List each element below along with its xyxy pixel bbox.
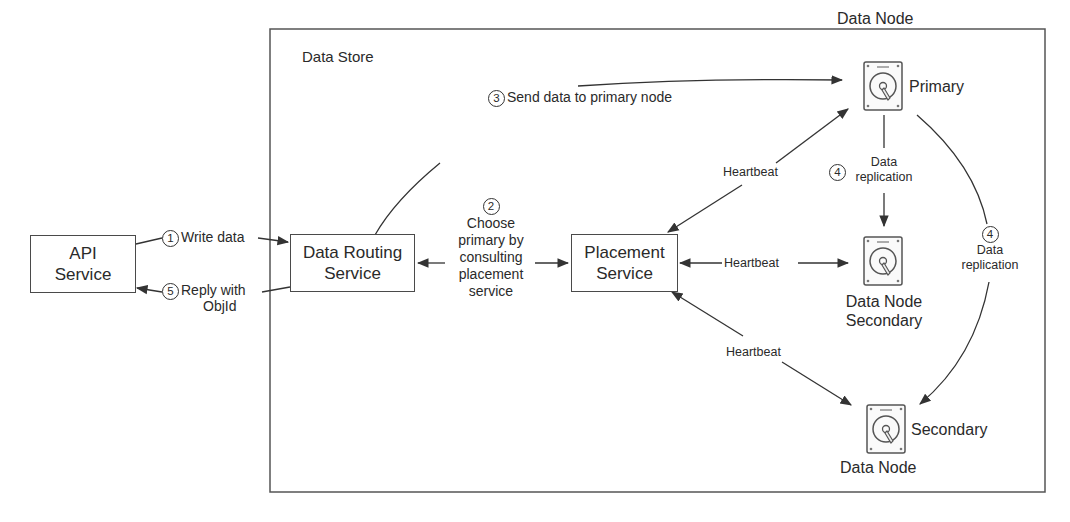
heartbeat-secondary-1-label: Heartbeat [724,256,779,271]
api-service-box[interactable]: API Service [30,235,136,293]
data-routing-label-1: Data Routing [303,242,402,263]
replication-1-line-2: replication [848,170,920,185]
placement-label-1: Placement [584,242,664,263]
reply-text-1: Reply with [181,282,246,298]
step-5-badge: 5 [162,283,179,300]
secondary-2-node-title: Data Node [840,458,917,477]
primary-node-title: Data Node [837,9,914,28]
primary-node-role: Primary [909,77,964,96]
step-4-badge-a: 4 [829,164,846,181]
reply-arrow [262,287,290,292]
choose-primary-label: 2 Choose primary by consulting placement… [446,197,536,300]
hard-disk-icon[interactable] [863,236,903,286]
hard-disk-icon[interactable] [863,61,903,111]
placement-service-box[interactable]: Placement Service [571,234,678,292]
choose-line-4: placement [446,266,536,283]
replication-2-arrow [917,115,987,224]
replication-2-label: 4 Data replication [954,226,1026,273]
hard-disk-icon[interactable] [866,404,906,454]
send-to-primary-arrow-b [578,80,842,86]
replication-2-line-1: Data [954,243,1026,258]
step-3-badge: 3 [488,90,505,107]
data-store-title: Data Store [302,48,374,65]
step-1-badge: 1 [162,230,179,247]
data-routing-label-2: Service [324,263,381,284]
api-service-label-2: Service [55,264,112,285]
secondary-1-title: Data Node [838,292,930,311]
step-2-badge: 2 [483,198,500,215]
step-4-badge-b: 4 [982,226,999,243]
replication-2-line-2: replication [954,258,1026,273]
choose-line-5: service [446,283,536,300]
write-data-text: Write data [181,229,245,245]
choose-line-2: primary by [446,232,536,249]
choose-line-3: consulting [446,249,536,266]
reply-text-2: ObjId [203,298,236,315]
send-to-primary-arrow-a [375,163,440,235]
secondary-1-node-label: Data Node Secondary [838,292,930,330]
secondary-2-node-role: Secondary [911,420,988,439]
heartbeat-primary-label: Heartbeat [723,165,778,180]
heartbeat-secondary-2-arrow [672,292,743,336]
send-to-primary-label: 3Send data to primary node [488,89,672,107]
send-to-primary-text: Send data to primary node [507,89,672,105]
replication-1-label: Data replication [848,155,920,185]
secondary-1-role: Secondary [838,311,930,330]
replication-1-step: 4 [829,163,848,181]
placement-label-2: Service [596,263,653,284]
write-data-label: 1Write data [162,229,245,247]
heartbeat-primary-arrow [776,109,848,163]
replication-1-line-1: Data [848,155,920,170]
data-routing-service-box[interactable]: Data Routing Service [290,234,415,292]
choose-line-1: Choose [446,215,536,232]
api-service-label-1: API [69,243,96,264]
write-data-arrow [136,238,162,244]
heartbeat-secondary-2-label: Heartbeat [726,345,781,360]
